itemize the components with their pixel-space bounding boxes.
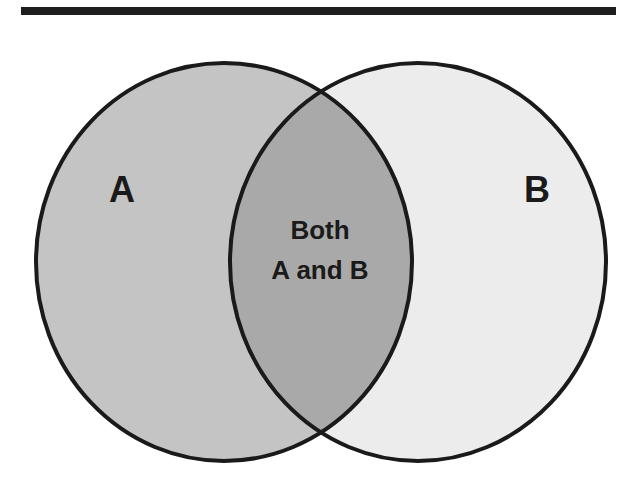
set-a-label: A [109,169,135,210]
venn-diagram: A B Both A and B [0,0,638,491]
set-b-label: B [524,169,550,210]
intersection-label-line2: A and B [271,255,368,285]
intersection-label-line1: Both [290,215,349,245]
